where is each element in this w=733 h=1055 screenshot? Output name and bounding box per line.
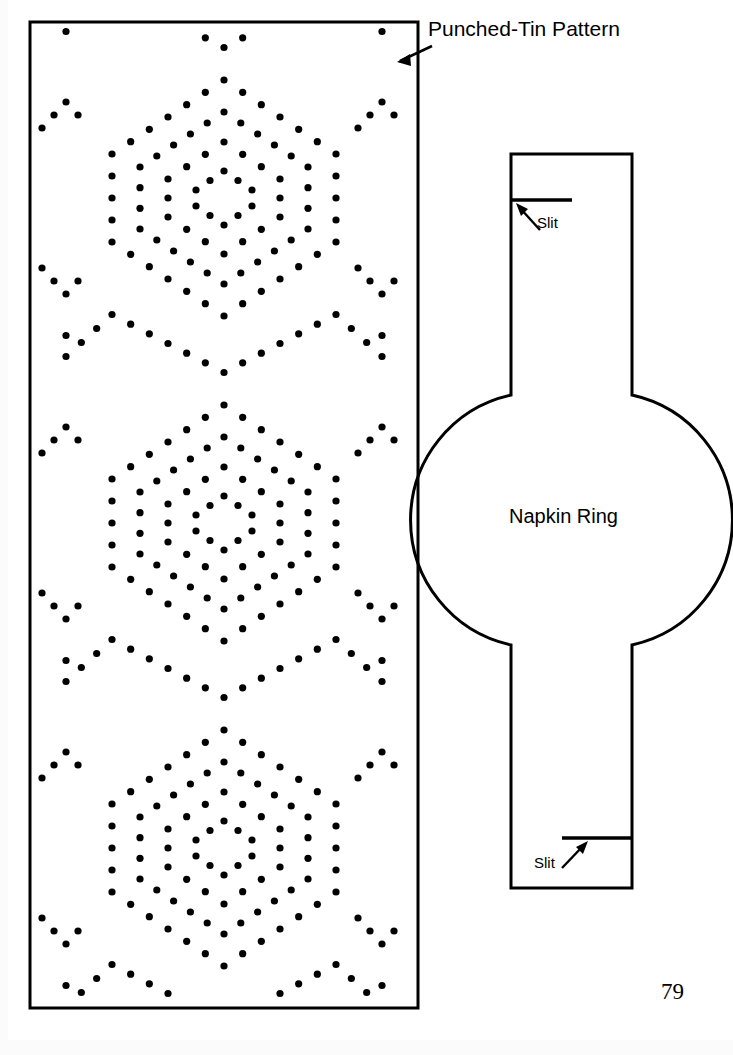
punched-dot <box>332 519 339 526</box>
punched-dot <box>108 194 115 201</box>
punched-dot <box>183 488 190 495</box>
punched-dot <box>304 225 311 232</box>
punched-dot <box>248 202 255 209</box>
punched-dot <box>271 572 278 579</box>
pattern-label: Punched-Tin Pattern <box>428 18 620 39</box>
punched-dot <box>288 802 295 809</box>
punched-dot <box>108 866 115 873</box>
punched-dot <box>258 101 265 108</box>
punched-dot <box>108 172 115 179</box>
punched-dot <box>332 216 339 223</box>
punched-dot <box>314 646 321 653</box>
page-number: 79 <box>661 979 684 1005</box>
punched-dot <box>378 982 385 989</box>
punched-dot <box>136 205 143 212</box>
punched-dot <box>237 444 244 451</box>
napkin-ring-label: Napkin Ring <box>509 506 618 526</box>
punched-dot <box>202 888 209 895</box>
punched-dot <box>271 897 278 904</box>
punched-dot <box>164 925 171 932</box>
punched-dot <box>202 801 209 808</box>
punched-dot <box>183 938 190 945</box>
punched-dot <box>314 971 321 978</box>
punched-dot <box>136 530 143 537</box>
punched-dot <box>332 844 339 851</box>
punched-dot <box>127 901 134 908</box>
punched-dot <box>136 225 143 232</box>
punched-dot <box>202 300 209 307</box>
punched-dot <box>38 774 45 781</box>
punched-dot <box>276 600 283 607</box>
punched-dot <box>248 511 255 518</box>
punched-dot <box>183 288 190 295</box>
punched-dot <box>204 444 211 451</box>
punched-dot <box>258 876 265 883</box>
punched-dot <box>164 600 171 607</box>
punched-dot <box>108 519 115 526</box>
punched-dot <box>183 163 190 170</box>
punched-dot <box>127 971 134 978</box>
punched-dot <box>62 98 69 105</box>
punched-dot <box>202 238 209 245</box>
punched-dot <box>354 124 361 131</box>
punched-dot <box>108 216 115 223</box>
punched-dot <box>93 650 100 657</box>
punched-dot <box>239 950 246 957</box>
punched-dot <box>183 101 190 108</box>
punched-dot <box>170 466 177 473</box>
callout-arrow-head <box>397 54 411 66</box>
punched-dot <box>288 152 295 159</box>
punched-dot <box>127 321 134 328</box>
punched-dot <box>366 436 373 443</box>
punched-dot <box>304 530 311 537</box>
punched-dot <box>202 625 209 632</box>
punched-dot <box>170 791 177 798</box>
punched-dot <box>258 350 265 357</box>
punched-tin-pattern-panel <box>30 22 418 1008</box>
punched-dot <box>258 938 265 945</box>
punched-dot <box>146 126 153 133</box>
punched-dot <box>220 167 227 174</box>
punched-dot <box>276 538 283 545</box>
punched-dot <box>234 177 241 184</box>
punched-dot <box>220 694 227 701</box>
punched-dot <box>153 236 160 243</box>
punched-dot <box>183 551 190 558</box>
punched-dot <box>237 119 244 126</box>
punched-dot <box>136 184 143 191</box>
punched-dot <box>187 455 194 462</box>
punched-dot <box>153 152 160 159</box>
punched-dot <box>239 563 246 570</box>
punched-dot <box>220 817 227 824</box>
punched-dot <box>220 605 227 612</box>
punched-dot <box>366 927 373 934</box>
punched-dot <box>276 213 283 220</box>
punched-dot <box>108 541 115 548</box>
punched-dot <box>366 602 373 609</box>
punched-dot <box>206 537 213 544</box>
punched-dot <box>146 776 153 783</box>
punched-dot <box>206 827 213 834</box>
punched-dot <box>254 908 261 915</box>
punched-dot <box>237 919 244 926</box>
punched-dot <box>378 332 385 339</box>
punched-dot <box>146 330 153 337</box>
punched-dot <box>78 664 85 671</box>
punched-dot <box>254 258 261 265</box>
punched-dot <box>239 414 246 421</box>
punched-dot <box>192 836 199 843</box>
punched-dot <box>390 111 397 118</box>
punched-dot <box>146 588 153 595</box>
punched-dot <box>304 813 311 820</box>
punched-dot <box>62 940 69 947</box>
punched-dot <box>220 312 227 319</box>
punched-dot <box>108 497 115 504</box>
punched-dot <box>204 769 211 776</box>
punched-dot <box>234 862 241 869</box>
punched-dot <box>127 646 134 653</box>
punched-dot <box>271 247 278 254</box>
punched-dot <box>332 636 339 643</box>
punched-dot <box>50 277 57 284</box>
punched-dot <box>146 263 153 270</box>
punched-dot <box>50 111 57 118</box>
